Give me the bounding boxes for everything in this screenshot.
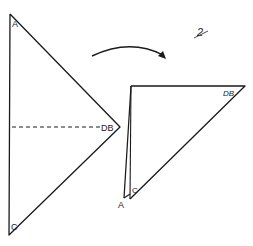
label-db-right: DB <box>223 89 235 98</box>
step-number: 2 <box>194 26 208 38</box>
label-c-left: C <box>11 222 18 232</box>
folding-diagram: A DB C 2 DB A C <box>0 0 253 246</box>
label-c-right: C <box>132 186 138 195</box>
label-a-left: A <box>12 19 18 29</box>
left-triangle: A DB C <box>9 14 120 235</box>
curved-arrow-icon <box>92 47 166 59</box>
right-triangle: DB A C <box>118 86 245 210</box>
label-a-right: A <box>118 200 124 210</box>
label-db-left: DB <box>101 123 114 133</box>
